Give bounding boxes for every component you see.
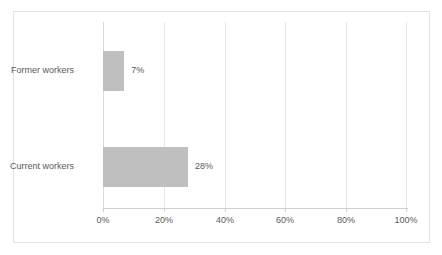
x-axis-line [103,208,408,209]
gridline-100 [406,22,407,208]
plot-area: 7% 28% Former workers Current workers [103,22,407,208]
gridline-60 [285,22,286,208]
bar-value-label-current-workers: 28% [195,162,213,171]
bar-value-label-former-workers: 7% [131,66,144,75]
x-tick-label-20: 20% [155,216,173,225]
tickmark-60 [285,208,286,212]
bar-former-workers[interactable] [103,51,124,91]
tickmark-100 [406,208,407,212]
tickmark-40 [225,208,226,212]
category-label-former-workers: Former workers [11,66,74,75]
category-label-current-workers: Current workers [10,162,74,171]
tickmark-0 [103,208,104,212]
x-tick-label-80: 80% [337,216,355,225]
gridline-80 [346,22,347,208]
tickmark-20 [164,208,165,212]
x-tick-label-100: 100% [394,216,417,225]
bar-current-workers[interactable] [103,147,188,187]
tickmark-80 [346,208,347,212]
x-tick-label-40: 40% [216,216,234,225]
x-tick-label-0: 0% [96,216,109,225]
bar-chart-figure: 7% 28% Former workers Current workers 0%… [13,11,430,243]
gridline-40 [225,22,226,208]
x-tick-label-60: 60% [276,216,294,225]
